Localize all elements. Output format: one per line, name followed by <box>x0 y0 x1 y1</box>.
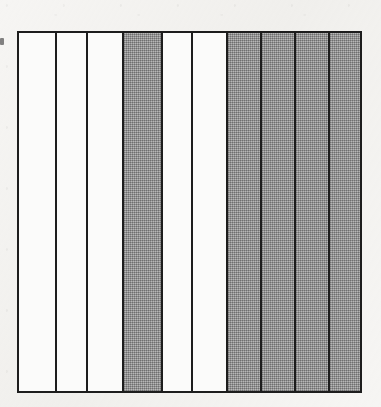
page-margin-mark <box>0 38 4 45</box>
stripe-4 <box>124 33 164 391</box>
stripe-7 <box>228 33 263 391</box>
stripe-3 <box>88 33 124 391</box>
stripe-5 <box>163 33 193 391</box>
stripe-2 <box>57 33 89 391</box>
stripe-8 <box>262 33 296 391</box>
striped-rectangle-figure <box>17 31 362 393</box>
stripe-9 <box>296 33 331 391</box>
stripe-10 <box>330 33 360 391</box>
stripe-6 <box>193 33 228 391</box>
stripe-1 <box>19 33 57 391</box>
